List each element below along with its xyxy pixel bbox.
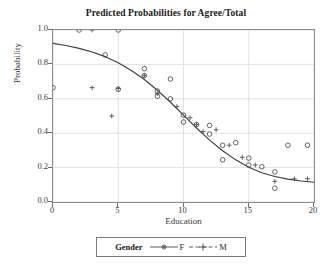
legend-entry-f[interactable]: F bbox=[150, 242, 185, 252]
data-point-circle bbox=[286, 143, 291, 148]
x-tick-label: 0 bbox=[37, 206, 67, 215]
y-tick-mark bbox=[48, 63, 52, 64]
data-point-circle bbox=[220, 143, 225, 148]
y-tick-label: 0.4 bbox=[8, 127, 48, 136]
series-f-points bbox=[53, 30, 310, 191]
x-tick-mark bbox=[248, 203, 249, 207]
data-point-plus bbox=[109, 114, 114, 119]
data-point-plus bbox=[116, 86, 121, 91]
y-tick-mark bbox=[48, 98, 52, 99]
data-point-circle bbox=[260, 164, 265, 169]
data-point-circle bbox=[220, 158, 225, 163]
data-point-plus bbox=[214, 127, 219, 132]
y-tick-label: 0.8 bbox=[8, 58, 48, 67]
x-tick-mark bbox=[183, 203, 184, 207]
legend-entry-m[interactable]: M bbox=[189, 242, 227, 252]
data-point-plus bbox=[175, 104, 180, 109]
data-point-circle bbox=[207, 123, 212, 128]
data-point-plus bbox=[272, 179, 277, 184]
legend-label-f: F bbox=[180, 242, 185, 252]
data-point-plus bbox=[253, 163, 258, 168]
y-tick-label: 1.0 bbox=[8, 24, 48, 33]
data-point-plus bbox=[90, 85, 95, 90]
x-tick-mark bbox=[117, 203, 118, 207]
data-point-plus bbox=[305, 176, 310, 181]
data-point-circle bbox=[207, 132, 212, 137]
legend-swatch-m-icon bbox=[189, 242, 217, 252]
y-tick-mark bbox=[48, 201, 52, 202]
chart-figure: Predicted Probabilities for Agree/Total … bbox=[0, 0, 332, 270]
y-tick-label: 0.0 bbox=[8, 196, 48, 205]
y-tick-label: 0.2 bbox=[8, 162, 48, 171]
y-tick-mark bbox=[48, 132, 52, 133]
series-m-points bbox=[90, 30, 310, 184]
x-tick-label: 10 bbox=[168, 206, 198, 215]
data-point-plus bbox=[227, 143, 232, 148]
data-point-circle bbox=[233, 140, 238, 145]
data-point-plus bbox=[240, 155, 245, 160]
x-tick-mark bbox=[313, 203, 314, 207]
x-tick-mark bbox=[52, 203, 53, 207]
data-point-circle bbox=[273, 170, 278, 175]
y-tick-mark bbox=[48, 29, 52, 30]
data-point-circle bbox=[142, 66, 147, 71]
x-axis-label: Education bbox=[52, 216, 315, 226]
data-point-circle bbox=[168, 77, 173, 82]
y-tick-label: 0.6 bbox=[8, 93, 48, 102]
legend-label-m: M bbox=[219, 242, 227, 252]
chart-title: Predicted Probabilities for Agree/Total bbox=[0, 8, 332, 18]
data-point-plus bbox=[90, 30, 95, 32]
x-tick-label: 15 bbox=[233, 206, 263, 215]
x-tick-label: 20 bbox=[298, 206, 328, 215]
y-tick-mark bbox=[48, 167, 52, 168]
plot-area bbox=[52, 29, 315, 203]
plot-canvas bbox=[53, 30, 314, 202]
legend-swatch-f-icon bbox=[150, 242, 178, 252]
legend-title: Gender bbox=[115, 242, 142, 252]
chart-legend: Gender F M bbox=[96, 237, 246, 257]
data-point-circle bbox=[273, 186, 278, 191]
x-tick-label: 5 bbox=[102, 206, 132, 215]
data-point-circle bbox=[305, 143, 310, 148]
